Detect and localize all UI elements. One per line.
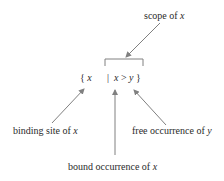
binding-site-label-text: binding site of xyxy=(13,125,73,136)
free-occurrence-arrow xyxy=(134,90,166,125)
scope-arrow xyxy=(126,23,160,57)
scope-label: scope of x xyxy=(144,11,185,21)
close-brace: } xyxy=(136,72,141,83)
operator: > xyxy=(121,72,127,83)
bound-occurrence-label-var: x xyxy=(153,161,157,172)
scope-label-var: x xyxy=(180,10,184,21)
arrows-layer xyxy=(0,0,224,181)
set-builder-formula: { x xyxy=(80,73,92,83)
binding-site-label: binding site of x xyxy=(13,126,78,136)
bound-var-occurrence: x xyxy=(114,72,118,83)
scope-bracket xyxy=(105,59,143,66)
free-occurrence-label-text: free occurrence of xyxy=(132,125,207,136)
open-brace: { xyxy=(80,72,85,83)
binding-site-arrow xyxy=(52,89,84,123)
free-occurrence-label: free occurrence of y xyxy=(132,126,212,136)
separator: | xyxy=(107,72,109,83)
free-occurrence-label-var: y xyxy=(207,125,211,136)
scope-label-text: scope of xyxy=(144,10,180,21)
bound-occurrence-label-text: bound occurrence of xyxy=(68,161,153,172)
free-var-occurrence: y xyxy=(129,72,133,83)
bound-occurrence-label: bound occurrence of x xyxy=(68,162,157,172)
binding-site-label-var: x xyxy=(73,125,77,136)
binding-var: x xyxy=(87,72,91,83)
set-builder-body: | x > y } xyxy=(107,73,141,83)
